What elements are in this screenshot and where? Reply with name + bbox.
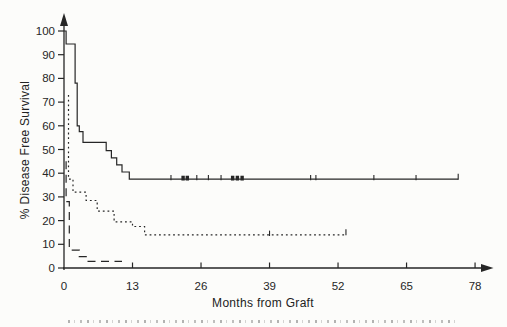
x-axis-title: Months from Graft xyxy=(212,296,314,310)
x-tick-label: 65 xyxy=(400,280,413,292)
solid-censor-mark-bold xyxy=(240,176,243,181)
x-tick-label: 39 xyxy=(263,280,276,292)
y-tick-label: 50 xyxy=(42,144,55,156)
km-survival-figure: 01020304050607080901000132639526578 % Di… xyxy=(0,0,507,327)
y-tick-label: 20 xyxy=(42,215,55,227)
y-tick-label: 30 xyxy=(42,191,55,203)
x-tick-label: 0 xyxy=(61,280,67,292)
y-tick-label: 10 xyxy=(42,238,55,250)
y-tick-label: 40 xyxy=(42,167,55,179)
x-axis-arrow-icon xyxy=(481,264,494,272)
y-tick-label: 80 xyxy=(42,72,55,84)
solid-censor-mark-bold xyxy=(181,176,184,181)
y-tick-label: 90 xyxy=(42,49,55,61)
solid-survival-curve xyxy=(64,31,458,179)
y-tick-label: 60 xyxy=(42,120,55,132)
y-tick-label: 0 xyxy=(49,262,55,274)
solid-censor-mark-bold xyxy=(236,176,239,181)
y-tick-label: 100 xyxy=(36,25,55,37)
x-tick-label: 52 xyxy=(332,280,345,292)
x-tick-label: 13 xyxy=(126,280,139,292)
cropped-caption-artifact xyxy=(68,320,460,323)
solid-censor-mark-bold xyxy=(231,176,234,181)
y-axis-title: % Disease Free Survival xyxy=(18,81,32,219)
dotted-survival-curve xyxy=(69,95,346,235)
chart-canvas: 01020304050607080901000132639526578 xyxy=(0,0,507,327)
y-axis-arrow-icon xyxy=(60,13,68,26)
x-tick-label: 78 xyxy=(469,280,482,292)
x-tick-label: 26 xyxy=(195,280,208,292)
solid-censor-mark-bold xyxy=(186,176,189,181)
y-tick-label: 70 xyxy=(42,96,55,108)
